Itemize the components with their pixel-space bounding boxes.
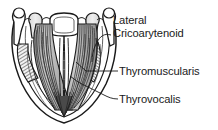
label-lateral-cricoarytenoid-line2: Cricoarytenoid	[113, 27, 184, 40]
label-thyromuscularis: Thyromuscularis	[119, 65, 200, 78]
label-lateral-cricoarytenoid: Lateral Cricoarytenoid	[113, 14, 184, 39]
label-thyrovocalis: Thyrovocalis	[119, 93, 181, 106]
label-lateral-cricoarytenoid-line1: Lateral	[113, 14, 184, 27]
larynx-figure: Lateral Cricoarytenoid Thyromuscularis T…	[0, 0, 218, 130]
